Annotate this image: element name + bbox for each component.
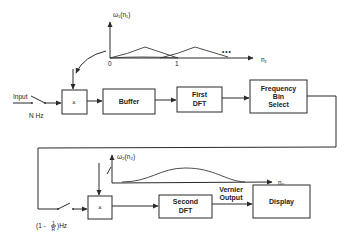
window2-x-axis	[112, 182, 272, 183]
multiplier-1-symbol: ×	[72, 99, 76, 106]
first-dft-label-1: First	[192, 91, 208, 98]
second-dft-label-2: DFT	[179, 207, 193, 214]
rate-numerator: 1	[52, 220, 55, 226]
input-rate: N Hz	[29, 112, 43, 119]
stage2-rate-label: (1 - 1 R )Hz	[36, 220, 67, 233]
window1-tick-0: 0	[108, 60, 112, 67]
rate-denominator: R	[52, 226, 56, 232]
window1-lobe-2	[160, 47, 228, 58]
input-switch[interactable]	[31, 96, 45, 103]
window2-curve	[122, 168, 245, 182]
window-plot-1: ω₁(n₁) 0 1 ••• n₁	[76, 11, 268, 73]
block-diagram: ω₁(n₁) 0 1 ••• n₁ Input N Hz × Buffer Fi…	[0, 0, 349, 241]
window1-axis-label: n₁	[261, 56, 268, 63]
stage2-chain: × Second DFT Vernier Output Display (1 -…	[36, 163, 310, 232]
multiplier-2-symbol: ×	[98, 204, 102, 211]
fbs-label-2: Bin	[273, 93, 284, 100]
fbs-label-1: Frequency	[261, 85, 297, 93]
vernier-output-label-1: Vernier	[219, 186, 243, 193]
stage1-chain: Input N Hz × Buffer First DFT Frequency …	[13, 69, 307, 119]
rate-suffix: )Hz	[57, 222, 67, 230]
window1-tick-1: 1	[175, 60, 179, 67]
window1-pointer-arrow	[76, 51, 106, 73]
display-label: Display	[269, 198, 294, 206]
rate-prefix: (1 -	[36, 222, 46, 230]
second-dft-label-1: Second	[173, 198, 198, 205]
window1-label: ω₁(n₁)	[113, 11, 130, 19]
window-plot-2: ω₂(n₂) n₂	[107, 153, 285, 186]
window2-label: ω₂(n₂)	[117, 153, 135, 161]
vernier-output-label-2: Output	[220, 194, 244, 202]
switch-contact-1	[31, 102, 33, 104]
input-label: Input	[13, 93, 28, 101]
stage2-switch[interactable]	[58, 203, 70, 209]
window2-pointer	[107, 167, 111, 174]
first-dft-label-2: DFT	[193, 100, 207, 107]
window1-ellipsis: •••	[222, 48, 232, 55]
buffer-label: Buffer	[119, 98, 140, 105]
fbs-label-3: Select	[268, 101, 289, 108]
